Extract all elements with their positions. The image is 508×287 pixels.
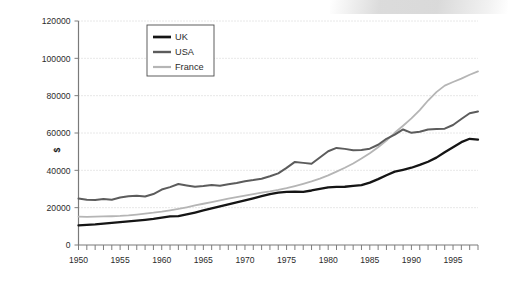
x-tick-label: 1995 xyxy=(443,255,462,265)
x-tick-label: 1970 xyxy=(235,255,254,265)
legend-label-france: France xyxy=(175,62,204,72)
series-line-uk xyxy=(79,139,479,226)
y-tick-label: 40000 xyxy=(47,166,71,176)
x-tick-label: 1975 xyxy=(277,255,296,265)
x-tick-label: 1980 xyxy=(319,255,338,265)
x-tick-label: 1985 xyxy=(360,255,379,265)
y-tick-label: 120000 xyxy=(42,16,71,26)
x-tick-label: 1950 xyxy=(69,255,88,265)
line-chart: 020000400006000080000100000120000 195019… xyxy=(0,0,508,287)
y-tick-label: 80000 xyxy=(47,91,71,101)
series-line-usa xyxy=(79,112,479,200)
legend-label-uk: UK xyxy=(175,32,189,42)
y-tick-label: 100000 xyxy=(42,54,71,64)
gridlines-group xyxy=(79,21,479,208)
y-tick-labels: 020000400006000080000100000120000 xyxy=(42,16,71,250)
y-axis-title: $ xyxy=(52,147,62,152)
x-tick-labels: 1950195519601965197019751980198519901995 xyxy=(69,255,463,265)
x-tick-label: 1955 xyxy=(111,255,130,265)
y-tick-label: 0 xyxy=(66,240,71,250)
y-tick-label: 20000 xyxy=(47,203,71,213)
chart-legend: UKUSAFrance xyxy=(147,25,214,76)
chart-screenshot: 020000400006000080000100000120000 195019… xyxy=(0,0,508,287)
chart-svg: 020000400006000080000100000120000 195019… xyxy=(0,0,508,287)
series-group xyxy=(79,71,479,225)
legend-label-usa: USA xyxy=(175,47,195,57)
y-tick-label: 60000 xyxy=(47,128,71,138)
x-tick-label: 1960 xyxy=(152,255,171,265)
x-tick-group xyxy=(79,245,479,250)
x-tick-label: 1965 xyxy=(194,255,213,265)
x-tick-label: 1990 xyxy=(402,255,421,265)
